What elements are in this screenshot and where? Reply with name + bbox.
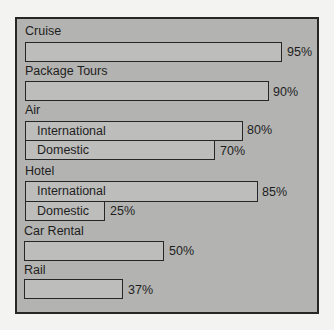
value-car-rental: 50%: [169, 244, 194, 258]
bar-label-air-domestic: Domestic: [37, 142, 89, 158]
group-label-package-tours: Package Tours: [25, 64, 107, 78]
group-label-cruise: Cruise: [25, 24, 61, 38]
value-package-tours: 90%: [273, 85, 298, 99]
bar-hotel-international: International: [25, 181, 258, 202]
bar-air-international: International: [25, 121, 243, 141]
value-cruise: 95%: [287, 45, 312, 59]
value-hotel-international: 85%: [262, 185, 287, 199]
value-hotel-domestic: 25%: [110, 204, 135, 218]
group-label-air: Air: [25, 103, 40, 117]
bar-label-hotel-international: International: [37, 183, 106, 199]
bar-car-rental: [24, 241, 164, 261]
group-label-car-rental: Car Rental: [24, 224, 84, 238]
value-rail: 37%: [128, 283, 153, 297]
value-air-domestic: 70%: [220, 144, 245, 158]
bar-air-domestic: Domestic: [25, 140, 215, 160]
bar-cruise: [25, 42, 282, 62]
bar-hotel-domestic: Domestic: [25, 201, 105, 221]
bar-package-tours: [25, 81, 269, 101]
bar-label-hotel-domestic: Domestic: [37, 203, 89, 219]
bar-label-air-international: International: [37, 123, 106, 139]
group-label-hotel: Hotel: [25, 164, 54, 178]
bar-rail: [24, 279, 123, 299]
group-label-rail: Rail: [24, 263, 46, 277]
value-air-international: 80%: [247, 123, 272, 137]
